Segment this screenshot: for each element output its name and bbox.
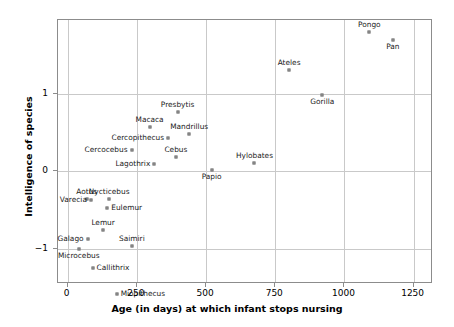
scatter-chart-figure: PongoPanAtelesGorillaPresbytisMacacaMand… xyxy=(0,0,454,327)
data-point[interactable] xyxy=(106,206,109,209)
data-point-label: Pongo xyxy=(358,21,381,29)
gridline-horizontal xyxy=(58,171,431,172)
y-axis-tick xyxy=(53,248,57,249)
y-axis-tick xyxy=(53,170,57,171)
y-axis-tick-label: 0 xyxy=(42,165,48,175)
data-point[interactable] xyxy=(176,110,179,113)
y-axis-tick-label: 1 xyxy=(42,88,48,98)
x-axis-tick xyxy=(274,283,275,287)
data-point-label: Varecia xyxy=(60,196,87,204)
x-axis-tick-label: 0 xyxy=(64,288,70,298)
x-axis-tick xyxy=(67,283,68,287)
x-axis-label: Age (in days) at which infant stops nurs… xyxy=(0,303,454,314)
data-point[interactable] xyxy=(148,126,151,129)
gridline-vertical xyxy=(414,20,415,282)
data-point[interactable] xyxy=(89,199,92,202)
x-axis-tick xyxy=(205,283,206,287)
x-axis-tick-label: 250 xyxy=(127,288,144,298)
data-point-label: Microcebus xyxy=(58,252,100,260)
gridline-horizontal xyxy=(58,249,431,250)
data-point[interactable] xyxy=(253,161,256,164)
data-point-label: Pan xyxy=(386,43,399,51)
data-point[interactable] xyxy=(130,244,133,247)
data-point[interactable] xyxy=(108,198,111,201)
x-axis-tick-label: 750 xyxy=(266,288,283,298)
data-point[interactable] xyxy=(368,31,371,34)
data-point-label: Nycticebus xyxy=(89,188,130,196)
data-point-label: Cercopithecus xyxy=(112,134,165,142)
data-point[interactable] xyxy=(167,137,170,140)
gridline-vertical xyxy=(206,20,207,282)
y-axis-tick xyxy=(53,93,57,94)
gridline-horizontal xyxy=(58,94,431,95)
data-point[interactable] xyxy=(288,69,291,72)
data-point-label: Macaca xyxy=(136,116,164,124)
data-point[interactable] xyxy=(130,149,133,152)
data-point[interactable] xyxy=(153,162,156,165)
data-point-label: Gorilla xyxy=(310,98,334,106)
data-point[interactable] xyxy=(86,237,89,240)
data-point[interactable] xyxy=(102,229,105,232)
data-point[interactable] xyxy=(115,293,118,296)
data-point-label: Galago xyxy=(58,235,84,243)
data-point-label: Mandrillus xyxy=(170,123,208,131)
gridline-vertical xyxy=(344,20,345,282)
data-point[interactable] xyxy=(188,133,191,136)
x-axis-tick xyxy=(413,283,414,287)
plot-area: PongoPanAtelesGorillaPresbytisMacacaMand… xyxy=(57,19,432,283)
y-axis-label: Intelligence of species xyxy=(23,67,34,247)
data-point-label: Saimiri xyxy=(119,235,145,243)
gridline-vertical xyxy=(275,20,276,282)
data-point-label: Lagothrix xyxy=(115,160,150,168)
data-point[interactable] xyxy=(91,267,94,270)
data-point-label: Presbytis xyxy=(161,101,194,109)
data-point-label: Ateles xyxy=(278,59,301,67)
x-axis-tick xyxy=(343,283,344,287)
data-point-label: Hylobates xyxy=(236,152,273,160)
data-point-label: Cebus xyxy=(164,146,187,154)
x-axis-tick-label: 500 xyxy=(196,288,213,298)
x-axis-tick-label: 1000 xyxy=(332,288,355,298)
data-point-label: Cercocebus xyxy=(85,146,128,154)
data-point[interactable] xyxy=(174,155,177,158)
data-point-label: Callithrix xyxy=(97,264,130,272)
y-axis-tick-label: −1 xyxy=(35,243,48,253)
data-point-label: Eulemur xyxy=(111,204,142,212)
data-point-label: Lemur xyxy=(91,219,114,227)
x-axis-tick-label: 1250 xyxy=(401,288,424,298)
x-axis-tick xyxy=(136,283,137,287)
data-point-label: Papio xyxy=(202,173,222,181)
